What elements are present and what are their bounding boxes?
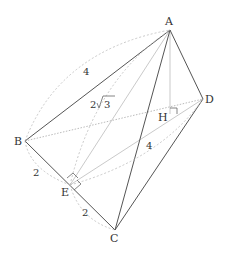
- length-ED: 4: [146, 140, 152, 151]
- edge-AD: [170, 30, 203, 99]
- point-label-D: D: [205, 93, 214, 106]
- length-AE-radicand: 3: [104, 99, 110, 110]
- length-AE-coef: 2: [90, 99, 96, 110]
- point-label-B: B: [14, 135, 22, 148]
- length-AB: 4: [83, 66, 89, 77]
- edge-AC: [115, 30, 170, 230]
- point-label-E: E: [61, 186, 69, 199]
- right-angle-mark-E: [67, 173, 81, 190]
- edge-AE: [70, 30, 170, 185]
- point-label-A: A: [164, 15, 174, 28]
- tetrahedron-diagram: A B C D E H 4 2 3 4 2 2: [0, 0, 226, 255]
- point-label-H: H: [158, 111, 168, 124]
- length-EC: 2: [82, 207, 88, 218]
- edge-ED: [70, 99, 203, 185]
- point-label-C: C: [110, 232, 118, 245]
- length-BE: 2: [33, 167, 39, 178]
- right-angle-mark-H: [170, 108, 177, 114]
